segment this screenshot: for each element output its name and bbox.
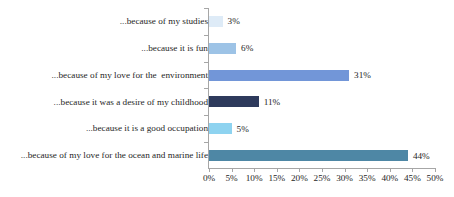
bar-container: 11%: [209, 88, 280, 115]
bar-container: 6%: [209, 35, 253, 62]
x-tick-label: 25%: [314, 173, 331, 183]
bar-value-label: 6%: [241, 43, 253, 53]
x-tick-mark: [277, 168, 278, 172]
x-tick-mark: [435, 168, 436, 172]
bar-value-label: 5%: [237, 124, 249, 134]
bar-row: ...because it is fun6%: [0, 35, 454, 62]
bar-container: 5%: [209, 115, 249, 142]
bar-value-label: 31%: [354, 70, 371, 80]
category-label: ...because it is fun: [3, 43, 208, 54]
x-tick-label: 5%: [225, 173, 237, 183]
x-tick-mark: [390, 168, 391, 172]
bar-rows: ...because of my studies3%...because it …: [0, 8, 454, 169]
bar: [209, 43, 236, 54]
category-label: ...because of my love for the environmen…: [3, 70, 208, 81]
bar-container: 31%: [209, 62, 371, 89]
bar-row: ...because it is a good occupation5%: [0, 115, 454, 142]
x-tick-label: 40%: [381, 173, 398, 183]
x-tick-mark: [299, 168, 300, 172]
plot-area: ...because of my studies3%...because it …: [0, 0, 454, 197]
bar-row: ...because it was a desire of my childho…: [0, 88, 454, 115]
bar-value-label: 3%: [228, 16, 240, 26]
bar: [209, 96, 259, 107]
bar: [209, 70, 349, 81]
x-tick-mark: [232, 168, 233, 172]
bar-value-label: 11%: [264, 97, 281, 107]
bar-chart: ...because of my studies3%...because it …: [0, 0, 454, 197]
category-label: ...because of my studies: [3, 16, 208, 27]
x-tick-mark: [367, 168, 368, 172]
x-tick-label: 45%: [404, 173, 421, 183]
bar: [209, 16, 223, 27]
x-tick-mark: [345, 168, 346, 172]
x-tick-mark: [322, 168, 323, 172]
bar: [209, 123, 232, 134]
x-tick-mark: [209, 168, 210, 172]
x-tick-label: 15%: [268, 173, 285, 183]
x-axis-ticks: 0%5%10%15%20%25%30%35%40%45%50%: [0, 168, 454, 188]
x-tick-label: 30%: [336, 173, 353, 183]
category-label: ...because of my love for the ocean and …: [3, 150, 208, 161]
x-tick-label: 0%: [203, 173, 215, 183]
bar-row: ...because of my love for the environmen…: [0, 62, 454, 89]
bar-row: ...because of my studies3%: [0, 8, 454, 35]
x-tick-mark: [412, 168, 413, 172]
bar: [209, 150, 408, 161]
category-label: ...because it is a good occupation: [3, 123, 208, 134]
bar-container: 44%: [209, 142, 430, 169]
category-label: ...because it was a desire of my childho…: [3, 97, 208, 108]
x-tick-label: 10%: [246, 173, 263, 183]
bar-row: ...because of my love for the ocean and …: [0, 142, 454, 169]
x-tick-label: 50%: [427, 173, 444, 183]
x-tick-mark: [254, 168, 255, 172]
bar-value-label: 44%: [413, 151, 430, 161]
x-tick-label: 35%: [359, 173, 376, 183]
bar-container: 3%: [209, 8, 240, 35]
x-tick-label: 20%: [291, 173, 308, 183]
